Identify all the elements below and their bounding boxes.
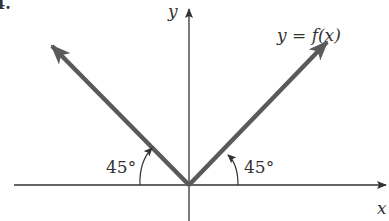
left-angle-label: 45°	[106, 157, 136, 177]
y-axis-label: y	[167, 1, 178, 21]
graph-figure: 4. y x y = f(x) 45° 45°	[0, 0, 389, 221]
right-angle-arc-icon	[228, 155, 238, 185]
right-angle-label: 45°	[244, 157, 274, 177]
x-axis-label: x	[377, 198, 387, 218]
left-angle-arc-icon	[140, 148, 152, 185]
figure-number-label: 4.	[0, 0, 11, 13]
function-label: y = f(x)	[276, 25, 341, 45]
